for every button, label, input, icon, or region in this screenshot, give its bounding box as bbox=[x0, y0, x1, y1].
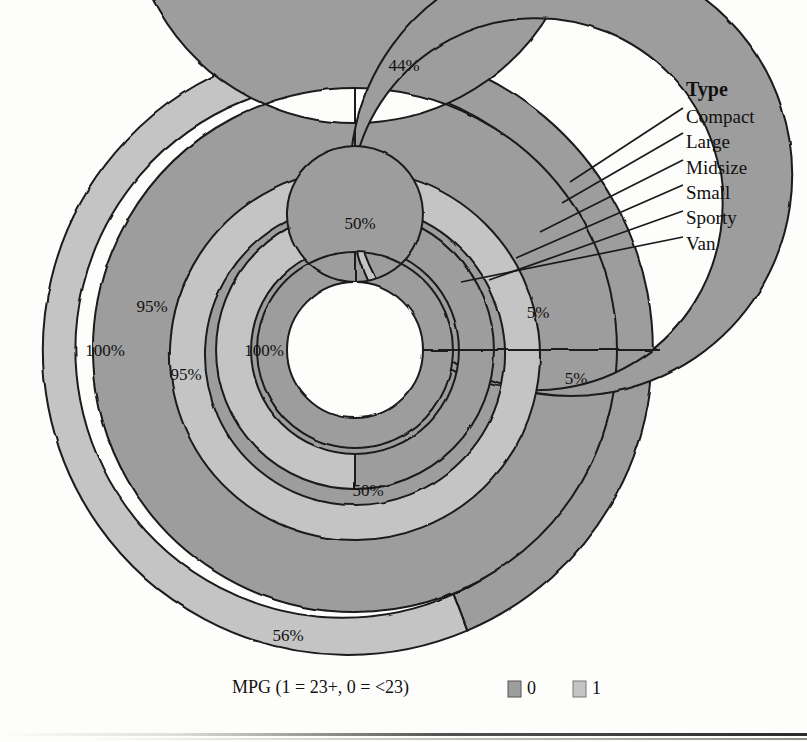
pct-label-small-0: 5% bbox=[565, 369, 588, 388]
leader-line-compact bbox=[570, 108, 683, 182]
ring-stack bbox=[43, 0, 792, 655]
pct-label-compact-1: 56% bbox=[272, 626, 303, 645]
pct-label-midsize-0: 95% bbox=[136, 297, 167, 316]
pct-label-sporty-1: 50% bbox=[352, 481, 383, 500]
page-edge-shadow bbox=[0, 733, 807, 736]
ring-chart-svg: 44% 56% 100% 95% 5% 5% 95% 50% 50% 100% … bbox=[0, 0, 807, 742]
pct-label-large-0: 100% bbox=[85, 341, 125, 360]
type-legend-item-large[interactable]: Large bbox=[686, 131, 730, 152]
type-legend-item-sporty[interactable]: Sporty bbox=[686, 207, 737, 228]
type-legend-title: Type bbox=[686, 78, 728, 101]
footer-caption: MPG (1 = 23+, 0 = <23) bbox=[232, 677, 409, 698]
type-legend-item-compact[interactable]: Compact bbox=[686, 106, 755, 127]
pct-label-compact-0: 44% bbox=[388, 56, 419, 75]
type-legend-item-small[interactable]: Small bbox=[686, 182, 730, 203]
mpg-legend-label-0[interactable]: 0 bbox=[527, 678, 536, 698]
pct-label-midsize-1: 5% bbox=[527, 303, 550, 322]
mpg-legend-label-1[interactable]: 1 bbox=[592, 678, 601, 698]
pct-label-sporty-0: 50% bbox=[344, 214, 375, 233]
mpg-swatch-1 bbox=[573, 681, 586, 697]
pct-label-van-0: 100% bbox=[244, 341, 284, 360]
type-legend-item-van[interactable]: Van bbox=[686, 233, 716, 254]
ring-chart-figure: 44% 56% 100% 95% 5% 5% 95% 50% 50% 100% … bbox=[0, 0, 807, 742]
mpg-swatch-0 bbox=[508, 681, 521, 697]
pct-label-small-1: 95% bbox=[170, 365, 201, 384]
type-legend-item-midsize[interactable]: Midsize bbox=[686, 157, 747, 178]
page-edge-shadow-2 bbox=[0, 738, 807, 740]
footer-legend: MPG (1 = 23+, 0 = <23) 0 1 bbox=[232, 677, 601, 698]
donut-hole bbox=[287, 282, 423, 418]
